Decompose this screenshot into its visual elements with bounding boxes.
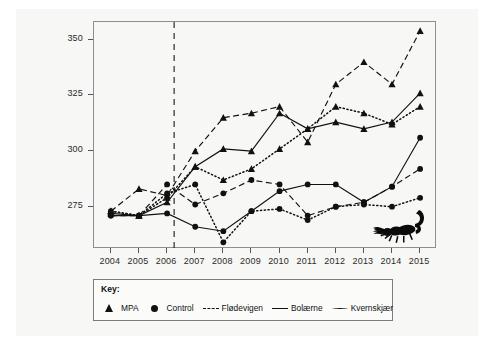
data-point-triangle — [332, 81, 339, 88]
data-point-circle — [192, 224, 198, 230]
data-point-circle — [305, 217, 311, 223]
data-point-circle — [249, 177, 255, 183]
y-axis-tick-label: 275 — [57, 200, 83, 210]
data-point-triangle — [135, 185, 142, 192]
legend-entry-label: Flødevigen — [222, 303, 263, 313]
data-point-triangle — [388, 81, 395, 88]
plot-area — [93, 21, 436, 248]
data-point-circle — [417, 195, 423, 201]
data-point-circle — [333, 182, 339, 188]
data-point-triangle — [192, 163, 199, 170]
data-point-triangle — [276, 103, 283, 110]
data-point-circle — [164, 210, 170, 216]
data-point-circle — [249, 208, 255, 214]
triangle-marker-icon — [102, 303, 118, 313]
legend-key-box: Key: MPAControlFlødevigenBolærneKvernskj… — [93, 279, 393, 321]
series-fldevigen-mpa — [107, 27, 423, 214]
data-point-circle — [192, 182, 198, 188]
legend-entries: MPAControlFlødevigenBolærneKvernskjær — [102, 300, 392, 316]
legend-entry[interactable]: MPA — [102, 303, 139, 313]
data-point-circle — [277, 206, 283, 212]
legend-entry-label: Bolærne — [291, 303, 323, 313]
data-point-circle — [333, 204, 339, 210]
scorpion-illustration — [371, 205, 431, 245]
data-point-circle — [305, 182, 311, 188]
data-point-triangle — [332, 119, 339, 126]
series-bolrne-mpa — [107, 90, 423, 219]
legend-entry[interactable]: Kvernskjær — [332, 303, 393, 313]
y-axis-tick-label: 300 — [57, 144, 83, 154]
data-point-circle — [277, 188, 283, 194]
legend-entry-label: Kvernskjær — [351, 303, 393, 313]
data-point-circle — [220, 228, 226, 234]
series-line — [111, 107, 420, 216]
data-point-triangle — [360, 58, 367, 65]
data-point-circle — [389, 184, 395, 190]
data-point-circle — [361, 202, 367, 208]
legend-entry[interactable]: Flødevigen — [203, 303, 263, 313]
page-margin-top — [0, 0, 492, 9]
data-point-triangle — [332, 103, 339, 110]
data-point-circle — [220, 190, 226, 196]
data-point-circle — [192, 202, 198, 208]
data-point-circle — [164, 182, 170, 188]
x-axis-tick-label: 2015 — [402, 256, 436, 266]
data-point-triangle — [417, 90, 424, 97]
legend-entry-label: Control — [167, 303, 194, 313]
data-point-circle — [108, 208, 114, 214]
legend-entry[interactable]: Bolærne — [272, 303, 323, 313]
figure-container: 90% percentile / mm 275300325350 2004200… — [0, 0, 492, 349]
data-point-circle — [136, 213, 142, 219]
data-point-triangle — [417, 103, 424, 110]
dashed-line-icon — [203, 303, 219, 313]
data-point-circle — [277, 182, 283, 188]
series-line — [111, 31, 420, 211]
data-point-circle — [220, 239, 226, 245]
data-point-triangle — [417, 27, 424, 34]
data-point-circle — [164, 190, 170, 196]
dotted-line-icon — [332, 303, 348, 313]
y-axis-tick-label: 350 — [57, 33, 83, 43]
page-margin-bottom — [0, 336, 492, 349]
solid-line-icon — [272, 303, 288, 313]
legend-entry-label: MPA — [121, 303, 139, 313]
data-point-triangle — [276, 145, 283, 152]
page-margin-left — [0, 0, 16, 349]
data-point-triangle — [192, 147, 199, 154]
legend-title: Key: — [101, 284, 120, 294]
legend-entry[interactable]: Control — [148, 303, 194, 313]
circle-marker-icon — [148, 303, 164, 313]
data-point-circle — [417, 135, 423, 141]
data-point-circle — [417, 166, 423, 172]
page-margin-right — [478, 0, 492, 349]
y-axis-tick-label: 325 — [57, 88, 83, 98]
